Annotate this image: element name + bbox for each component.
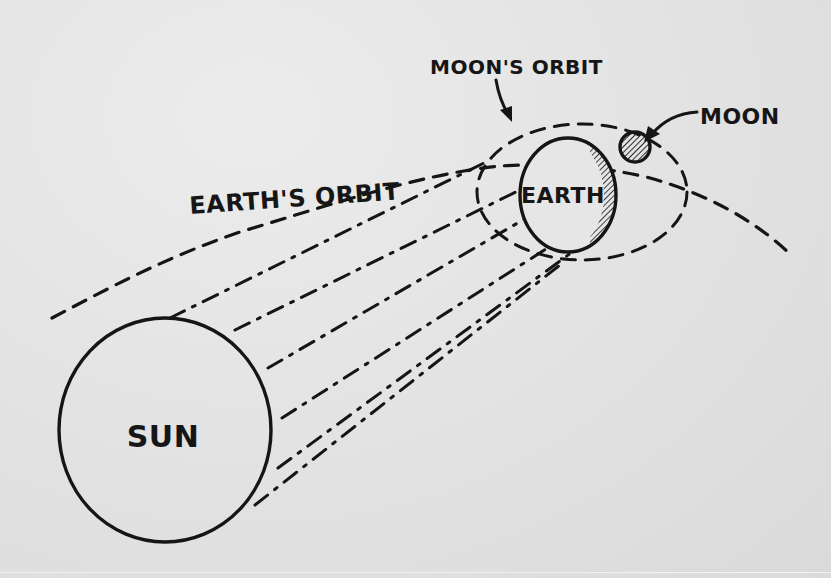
sun: SUN — [59, 318, 271, 542]
moon-label: MOON — [700, 104, 780, 129]
bottom-edge — [0, 572, 831, 573]
sun-label: SUN — [127, 419, 200, 454]
moon-orbit-label: MOON'S ORBIT — [430, 55, 603, 79]
moon-orbit-arrow-icon — [496, 80, 512, 122]
diagram-canvas: SUN EARTH EARTH'S ORBIT MOON'S ORBIT MOO… — [0, 0, 831, 578]
earth-orbit-label: EARTH'S ORBIT — [188, 177, 400, 220]
moon-arrow-icon — [644, 112, 697, 142]
sun-earth-moon-diagram: SUN EARTH EARTH'S ORBIT MOON'S ORBIT MOO… — [0, 0, 831, 578]
earth: EARTH — [520, 138, 616, 252]
earth-orbit-path — [52, 165, 790, 318]
earth-label: EARTH — [521, 183, 605, 208]
